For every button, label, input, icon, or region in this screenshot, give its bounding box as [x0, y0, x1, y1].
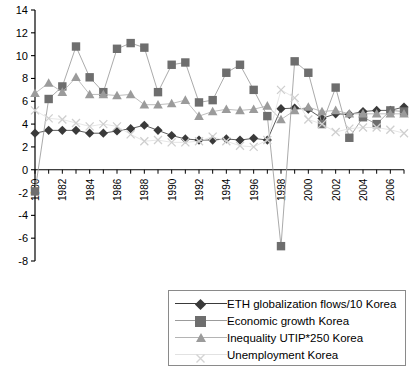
- data-point-triangle: [30, 88, 40, 97]
- x-tick-label: 2004: [358, 178, 369, 201]
- data-point-square: [126, 39, 134, 47]
- data-point-x: [72, 119, 80, 127]
- data-point-triangle: [304, 102, 314, 111]
- y-tick-label: 0: [22, 164, 28, 176]
- square-icon: [195, 316, 206, 327]
- legend-label: ETH globalization flows/10 Korea: [227, 296, 396, 312]
- x-tick-label: 2002: [331, 178, 342, 201]
- data-point-square: [331, 83, 339, 91]
- x-icon: [195, 350, 206, 361]
- legend-sample-triangle: [175, 330, 227, 346]
- chart-figure: 14121086420-2-4-6-8198019821984198619881…: [0, 0, 410, 372]
- x-tick-label: 1996: [249, 178, 260, 201]
- data-point-square: [31, 187, 39, 195]
- legend-item-economic-growth: Economic growth Korea: [169, 312, 405, 329]
- y-tick-label: -2: [18, 187, 28, 199]
- data-point-triangle: [331, 106, 341, 115]
- data-point-square: [113, 45, 121, 53]
- data-point-square: [44, 95, 52, 103]
- data-point-square: [154, 88, 162, 96]
- data-point-square: [277, 242, 285, 250]
- data-point-square: [181, 58, 189, 66]
- data-point-triangle: [71, 73, 81, 82]
- chart-legend: ETH globalization flows/10 Korea Economi…: [168, 290, 406, 366]
- data-point-square: [290, 57, 298, 65]
- data-point-square: [345, 134, 353, 142]
- x-tick-label: 1986: [112, 178, 123, 201]
- y-tick-label: 10: [16, 50, 28, 62]
- y-tick-label: -6: [18, 232, 28, 244]
- data-point-x: [332, 128, 340, 136]
- y-tick-label: -4: [18, 209, 28, 221]
- x-tick-label: 1984: [85, 178, 96, 201]
- data-point-square: [140, 43, 148, 51]
- legend-item-inequality-utip: Inequality UTIP*250 Korea: [169, 329, 405, 346]
- data-point-diamond: [276, 104, 285, 113]
- data-point-triangle: [263, 101, 273, 110]
- x-tick-label: 2000: [303, 178, 314, 201]
- data-point-square: [167, 61, 175, 69]
- x-tick-label: 1994: [221, 178, 232, 201]
- data-point-square: [249, 86, 257, 94]
- x-tick-label: 2006: [385, 178, 396, 201]
- legend-sample-square: [175, 313, 227, 329]
- data-point-triangle: [140, 100, 150, 109]
- data-point-diamond: [112, 126, 121, 135]
- data-point-diamond: [153, 126, 162, 135]
- data-point-square: [304, 69, 312, 77]
- data-point-square: [72, 42, 80, 50]
- data-point-x: [400, 129, 408, 137]
- x-tick-label: 1988: [139, 178, 150, 201]
- x-tick-label: 1992: [194, 178, 205, 201]
- data-point-diamond: [249, 134, 258, 143]
- data-point-square: [263, 112, 271, 120]
- legend-label: Unemployment Korea: [227, 347, 338, 363]
- legend-label: Inequality UTIP*250 Korea: [227, 330, 363, 346]
- data-point-triangle: [44, 78, 54, 87]
- data-point-diamond: [58, 126, 67, 135]
- data-point-square: [195, 98, 203, 106]
- y-tick-label: 6: [22, 95, 28, 107]
- data-point-diamond: [71, 126, 80, 135]
- x-tick-label: 1982: [57, 178, 68, 201]
- data-point-triangle: [126, 90, 136, 99]
- data-point-x: [277, 86, 285, 94]
- data-point-x: [99, 120, 107, 128]
- legend-sample-diamond: [175, 296, 227, 312]
- diamond-icon: [195, 298, 206, 309]
- legend-sample-x: [175, 347, 227, 363]
- y-tick-label: 8: [22, 72, 28, 84]
- y-tick-label: 12: [16, 27, 28, 39]
- data-point-diamond: [99, 129, 108, 138]
- data-point-x: [304, 116, 312, 124]
- legend-item-eth-globalization: ETH globalization flows/10 Korea: [169, 295, 405, 312]
- legend-item-unemployment: Unemployment Korea: [169, 346, 405, 363]
- y-tick-label: 2: [22, 141, 28, 153]
- data-point-diamond: [30, 129, 39, 138]
- data-point-diamond: [44, 126, 53, 135]
- y-tick-label: 4: [22, 118, 28, 130]
- y-tick-label: -8: [18, 255, 28, 267]
- data-point-x: [386, 126, 394, 134]
- legend-label: Economic growth Korea: [227, 313, 349, 329]
- data-point-square: [85, 73, 93, 81]
- triangle-icon: [196, 333, 206, 342]
- y-tick-label: 14: [16, 4, 28, 16]
- data-point-square: [208, 96, 216, 104]
- data-point-triangle: [222, 104, 232, 113]
- data-point-square: [222, 69, 230, 77]
- data-point-triangle: [181, 95, 191, 104]
- data-point-diamond: [140, 121, 149, 130]
- x-tick-label: 1990: [167, 178, 178, 201]
- data-point-square: [236, 61, 244, 69]
- series-2: [31, 39, 408, 250]
